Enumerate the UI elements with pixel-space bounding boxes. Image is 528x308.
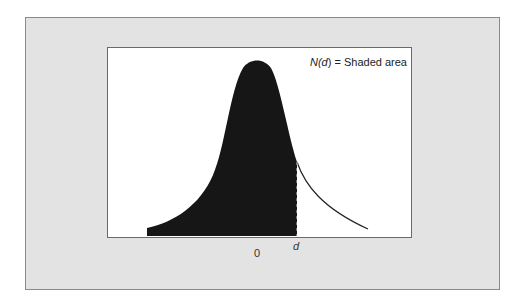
legend-symbol-prefix: N( xyxy=(310,56,322,68)
legend-text: Shaded area xyxy=(344,56,407,68)
legend-annotation: N(d) = Shaded area xyxy=(310,56,407,68)
axis-label-zero: 0 xyxy=(254,247,260,259)
right-tail-curve xyxy=(297,162,368,229)
legend-equals: = xyxy=(331,56,344,68)
distribution-curve xyxy=(107,47,412,238)
axis-label-d: d xyxy=(293,240,299,252)
shaded-area xyxy=(147,61,297,237)
